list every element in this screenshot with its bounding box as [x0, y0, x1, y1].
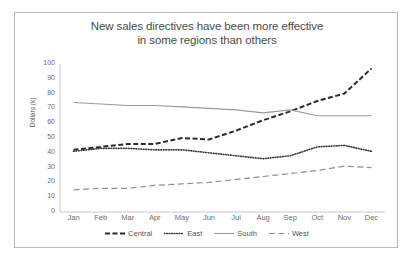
axis-lines [60, 64, 385, 212]
y-tick-label: 90 [33, 74, 55, 81]
y-tick-label: 40 [33, 148, 55, 155]
y-tick-label: 70 [33, 103, 55, 110]
y-tick-label: 30 [33, 163, 55, 170]
chart-legend: CentralEastSouthWest [15, 229, 399, 238]
y-tick-label: 10 [33, 192, 55, 199]
legend-item-west[interactable]: West [269, 229, 309, 238]
chart-card: New sales directives have been more effe… [14, 12, 398, 248]
legend-label-east: East [187, 229, 202, 238]
y-tick-label: 50 [33, 133, 55, 140]
x-tick-label-nov: Nov [329, 213, 359, 222]
x-tick-label-mar: Mar [113, 213, 143, 222]
y-tick-label: 80 [33, 89, 55, 96]
legend-swatch-central [105, 230, 125, 237]
legend-label-central: Central [128, 229, 152, 238]
y-tick-label: 60 [33, 118, 55, 125]
x-tick-label-jun: Jun [194, 213, 224, 222]
y-tick-label: 0 [33, 207, 55, 214]
legend-item-south[interactable]: South [214, 229, 257, 238]
legend-label-west: West [292, 229, 309, 238]
series-layer [74, 68, 372, 189]
x-tick-label-aug: Aug [248, 213, 278, 222]
x-tick-label-may: May [167, 213, 197, 222]
x-tick-label-feb: Feb [86, 213, 116, 222]
series-line-east [74, 145, 372, 158]
x-tick-label-apr: Apr [140, 213, 170, 222]
x-tick-label-jul: Jul [221, 213, 251, 222]
x-tick-label-jan: Jan [59, 213, 89, 222]
legend-swatch-south [214, 230, 234, 237]
plot-area: 1009080706050403020100 JanFebMarAprMayJu… [15, 13, 399, 249]
series-line-west [74, 166, 372, 190]
legend-label-south: South [237, 229, 257, 238]
series-line-south [74, 102, 372, 115]
x-tick-label-dec: Dec [356, 213, 386, 222]
legend-swatch-east [164, 230, 184, 237]
y-tick-label: 100 [33, 59, 55, 66]
legend-item-central[interactable]: Central [105, 229, 152, 238]
x-tick-label-oct: Oct [302, 213, 332, 222]
y-tick-label: 20 [33, 177, 55, 184]
legend-item-east[interactable]: East [164, 229, 202, 238]
legend-swatch-west [269, 230, 289, 237]
x-tick-label-sep: Sep [275, 213, 305, 222]
